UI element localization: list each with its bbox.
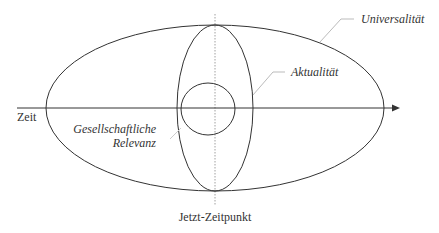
aktual-leader-line [253,72,285,95]
now-point-label: Jetzt-Zeitpunkt [179,210,252,224]
relevanz-label-line2: Relevanz [112,136,157,150]
relevance-circle [181,83,235,135]
time-axis-label: Zeit [17,110,37,124]
relevanz-label-line1: Gesellschaftliche [73,122,156,136]
concept-diagram: Universalität Aktualität Gesellschaftlic… [0,0,439,233]
time-axis-arrow-icon [392,105,400,112]
universal-leader-line [320,19,354,42]
aktual-label: Aktualität [290,65,339,79]
universal-label: Universalität [361,12,425,26]
